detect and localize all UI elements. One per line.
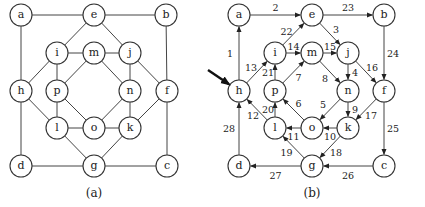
node-a: a xyxy=(10,4,32,26)
node-e: e xyxy=(83,4,105,26)
edge-label: 24 xyxy=(387,48,399,59)
node-label: o xyxy=(91,121,98,134)
edge-label: 17 xyxy=(365,110,377,121)
edge-label: 28 xyxy=(223,123,235,134)
node-label: p xyxy=(271,84,278,97)
edge-f-k xyxy=(138,99,159,120)
node-m: m xyxy=(83,42,105,64)
start-arrow-icon xyxy=(208,70,229,84)
node-label: k xyxy=(127,121,134,134)
node-label: i xyxy=(55,46,59,59)
node-label: c xyxy=(381,159,387,172)
edge-p-o xyxy=(65,99,86,120)
node-label: d xyxy=(235,159,242,172)
undirected-graph-a: aebimjhpnflokdgc(a) xyxy=(10,4,178,200)
edge-label: 16 xyxy=(366,62,378,73)
node-g: g xyxy=(301,155,323,177)
node-h: h xyxy=(228,80,250,102)
edge-label: 14 xyxy=(287,41,299,52)
edge-label: 12 xyxy=(247,110,259,121)
edge-m-p xyxy=(65,61,87,83)
node-d: d xyxy=(228,155,250,177)
edge-h-l xyxy=(29,99,50,120)
edge-label: 20 xyxy=(262,104,274,115)
node-k: k xyxy=(337,117,359,139)
nodes: aebimjhpnflokdgc xyxy=(10,4,178,177)
node-label: h xyxy=(235,84,242,97)
node-l: l xyxy=(264,117,286,139)
node-j: j xyxy=(337,42,359,64)
edge-label: 3 xyxy=(333,24,339,35)
node-c: c xyxy=(373,155,395,177)
node-m: m xyxy=(301,42,323,64)
node-label: d xyxy=(17,159,24,172)
node-h: h xyxy=(10,80,32,102)
node-n: n xyxy=(337,80,359,102)
edge-label: 25 xyxy=(387,123,399,134)
node-a: a xyxy=(228,4,250,26)
edge-label: 22 xyxy=(280,26,292,37)
edge-label: 18 xyxy=(330,147,342,158)
node-b: b xyxy=(373,4,395,26)
node-label: p xyxy=(53,84,60,97)
edge-label: 26 xyxy=(342,170,354,181)
node-label: m xyxy=(307,46,318,59)
edge-b-f xyxy=(166,26,167,80)
node-g: g xyxy=(83,155,105,177)
edge-e-i xyxy=(65,23,87,45)
node-label: e xyxy=(91,8,98,21)
node-l: l xyxy=(46,117,68,139)
caption-b: (b) xyxy=(303,186,320,200)
edge-label: 13 xyxy=(245,62,257,73)
node-k: k xyxy=(119,117,141,139)
edge-l-g xyxy=(65,136,87,158)
caption-a: (a) xyxy=(86,186,103,200)
edge-label: 6 xyxy=(295,98,301,109)
node-label: g xyxy=(308,159,315,172)
edge-label: 2 xyxy=(272,2,278,13)
node-label: m xyxy=(89,46,100,59)
node-n: n xyxy=(119,80,141,102)
edge-label: 15 xyxy=(324,41,336,52)
node-label: c xyxy=(164,159,170,172)
node-label: a xyxy=(236,8,243,21)
edge-label: 10 xyxy=(324,131,336,142)
node-o: o xyxy=(83,117,105,139)
node-label: k xyxy=(345,121,352,134)
node-label: n xyxy=(344,84,351,97)
node-f: f xyxy=(373,80,395,102)
node-label: h xyxy=(17,84,24,97)
node-p: p xyxy=(264,80,286,102)
node-b: b xyxy=(155,4,177,26)
node-label: b xyxy=(380,8,387,21)
edge-label: 27 xyxy=(269,170,281,181)
node-label: i xyxy=(273,46,277,59)
node-label: b xyxy=(162,8,169,21)
directed-graph-b: 1234567891011121314151617181920212223242… xyxy=(208,2,399,201)
graph-diagram: aebimjhpnflokdgc(a) 12345678910111213141… xyxy=(0,0,425,207)
node-label: l xyxy=(273,121,277,134)
node-i: i xyxy=(46,42,68,64)
edge-label: 8 xyxy=(322,73,328,84)
node-label: o xyxy=(309,121,316,134)
edge-label: 7 xyxy=(295,72,301,83)
nodes: aebimjhpnflokdgc xyxy=(228,4,395,177)
edge-label: 23 xyxy=(342,2,354,13)
node-label: g xyxy=(90,159,97,172)
edge-e-j xyxy=(102,23,123,45)
edges xyxy=(21,15,167,166)
edge-label: 9 xyxy=(352,104,358,115)
node-p: p xyxy=(46,80,68,102)
edge-label: 21 xyxy=(262,67,274,78)
node-c: c xyxy=(156,155,178,177)
edge-label: 1 xyxy=(227,48,233,59)
edge-n-o xyxy=(102,99,123,120)
node-label: n xyxy=(126,84,133,97)
node-j: j xyxy=(119,42,141,64)
edge-label: 4 xyxy=(352,67,358,78)
edge-m-n xyxy=(102,61,123,83)
edge-k-g xyxy=(102,136,123,158)
node-d: d xyxy=(10,155,32,177)
node-f: f xyxy=(156,80,178,102)
node-i: i xyxy=(264,42,286,64)
